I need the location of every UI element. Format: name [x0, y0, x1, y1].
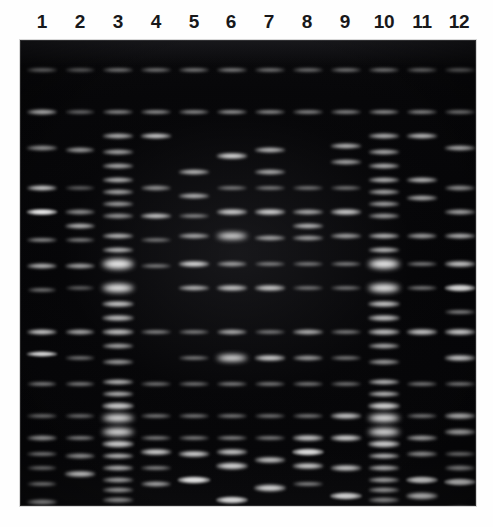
dna-band — [407, 414, 437, 419]
dna-band — [293, 262, 323, 267]
dna-band — [27, 329, 57, 335]
gel-lane-3 — [101, 40, 135, 506]
dna-band — [407, 329, 438, 336]
dna-band — [407, 286, 437, 291]
dna-band — [293, 209, 324, 215]
dna-band — [445, 329, 476, 336]
dna-band — [368, 258, 401, 270]
dna-band — [368, 329, 400, 336]
gel-lane-8 — [291, 40, 325, 506]
gel-lane-7 — [253, 40, 287, 506]
dna-band — [407, 177, 438, 183]
dna-band — [331, 209, 362, 216]
dna-band — [27, 435, 57, 441]
dna-band — [369, 465, 400, 471]
lane-label-6: 6 — [216, 10, 246, 34]
dna-band — [369, 453, 400, 459]
dna-band — [445, 382, 475, 387]
dna-band — [102, 427, 135, 437]
dna-band — [445, 310, 475, 315]
dna-band — [368, 427, 401, 437]
dna-band — [66, 238, 95, 243]
dna-band — [255, 457, 286, 464]
dna-band — [407, 382, 437, 387]
dna-band — [369, 497, 400, 503]
dna-band — [445, 452, 475, 457]
dna-band — [293, 235, 324, 241]
dna-band — [369, 177, 400, 183]
lane-label-5: 5 — [179, 10, 209, 34]
dna-band — [216, 496, 248, 504]
dna-band — [406, 492, 438, 500]
dna-band — [331, 233, 362, 239]
dna-band — [27, 109, 57, 115]
gel-lane-1 — [25, 40, 59, 506]
gel-electrophoresis-figure: 123456789101112 — [0, 0, 493, 527]
dna-band — [179, 382, 209, 387]
dna-band — [179, 233, 210, 239]
dna-band — [293, 382, 323, 387]
gel-lane-10 — [367, 40, 401, 506]
gel-lane-9 — [329, 40, 363, 506]
dna-band — [66, 329, 95, 335]
dna-band — [103, 201, 134, 207]
dna-band — [103, 477, 134, 483]
dna-band — [331, 262, 361, 267]
dna-band — [368, 315, 400, 322]
dna-band — [27, 68, 57, 73]
dna-band — [368, 301, 400, 308]
dna-band — [255, 110, 285, 115]
dna-band — [369, 487, 400, 493]
gel-lane-5 — [177, 40, 211, 506]
dna-band — [216, 462, 248, 470]
dna-band — [293, 223, 324, 229]
dna-band — [445, 261, 476, 268]
dna-band — [407, 133, 438, 139]
dna-band — [293, 435, 324, 442]
dna-band — [103, 497, 134, 503]
dna-band — [28, 382, 57, 387]
dna-band — [103, 213, 134, 219]
lane-label-9: 9 — [330, 10, 360, 34]
dna-band — [102, 301, 134, 308]
dna-band — [331, 330, 361, 335]
dna-band — [293, 329, 324, 335]
dna-band — [27, 145, 58, 151]
gel-lane-11 — [405, 40, 439, 506]
dna-band — [66, 68, 95, 73]
dna-band — [179, 330, 209, 335]
dna-band — [445, 145, 476, 151]
dna-band — [27, 263, 57, 269]
dna-band — [179, 261, 210, 268]
dna-band — [102, 402, 134, 410]
dna-band — [293, 414, 323, 419]
dna-band — [217, 153, 248, 160]
dna-band — [368, 413, 401, 423]
dna-band — [103, 233, 134, 239]
dna-band — [103, 163, 134, 169]
dna-band — [66, 356, 95, 361]
dna-band — [292, 448, 324, 456]
dna-band — [368, 283, 401, 294]
dna-band — [102, 258, 135, 271]
dna-band — [407, 68, 437, 73]
dna-band — [141, 436, 171, 441]
dna-band — [445, 413, 476, 420]
dna-band — [27, 185, 57, 191]
dna-band — [331, 286, 361, 291]
dna-band — [293, 110, 323, 115]
dna-band — [141, 68, 171, 73]
dna-band — [27, 452, 57, 457]
dna-band — [141, 110, 171, 115]
dna-band — [369, 379, 400, 385]
dna-band — [217, 209, 248, 216]
dna-band — [369, 110, 399, 115]
dna-band — [445, 110, 475, 115]
dna-band — [293, 463, 324, 470]
dna-band — [141, 466, 171, 471]
lane-label-11: 11 — [407, 10, 437, 34]
dna-band — [255, 382, 285, 387]
lane-label-4: 4 — [141, 10, 171, 34]
dna-band — [141, 382, 171, 387]
dna-band — [217, 436, 247, 441]
